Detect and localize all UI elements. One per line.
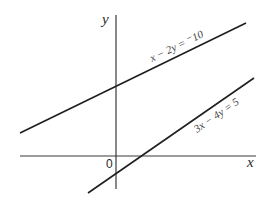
y-axis-label: y (100, 11, 109, 27)
equation-label-line-2: 3x − 4y = 5 (190, 95, 241, 135)
origin-label: 0 (106, 157, 113, 171)
x-axis-label: x (246, 154, 254, 170)
line-3x-minus-4y-eq-5 (88, 78, 254, 193)
equation-label-line-1: x − 2y = ⁻10 (147, 27, 206, 64)
coordinate-diagram: y x 0 x − 2y = ⁻10 3x − 4y = 5 (0, 0, 269, 202)
